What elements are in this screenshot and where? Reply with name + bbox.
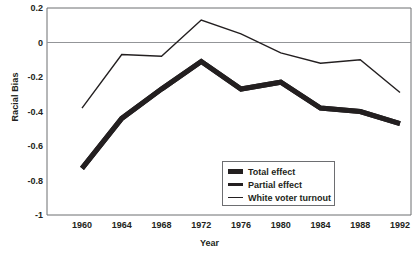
x-axis-tick-label: 1984 — [310, 220, 330, 230]
legend-swatch-icon — [228, 183, 243, 186]
x-axis-title: Year — [0, 238, 419, 248]
series-line-partial-effect — [82, 61, 400, 168]
legend-label: Total effect — [248, 167, 295, 177]
legend-item-white-voter-turnout: White voter turnout — [228, 191, 331, 204]
chart-figure: 0.20-0.2-0.4-0.6-0.8-1 Racial Bias Year … — [0, 0, 419, 257]
chart-legend: Total effect Partial effect White voter … — [222, 161, 335, 206]
legend-swatch-icon — [228, 197, 243, 198]
legend-label: White voter turnout — [248, 193, 331, 203]
plot-area — [0, 0, 419, 257]
legend-swatch-icon — [228, 169, 243, 174]
x-axis-tick-label: 1964 — [112, 220, 132, 230]
x-axis-tick-label: 1960 — [72, 220, 92, 230]
legend-item-total-effect: Total effect — [228, 165, 295, 178]
x-axis-tick-label: 1972 — [191, 220, 211, 230]
series-line-white-voter-turnout — [82, 20, 400, 108]
legend-label: Partial effect — [248, 180, 302, 190]
x-axis-tick-label: 1968 — [151, 220, 171, 230]
legend-item-partial-effect: Partial effect — [228, 178, 302, 191]
x-axis-tick-label: 1988 — [350, 220, 370, 230]
x-axis-tick-label: 1980 — [271, 220, 291, 230]
x-axis-tick-label: 1992 — [390, 220, 410, 230]
x-axis-tick-label: 1976 — [231, 220, 251, 230]
